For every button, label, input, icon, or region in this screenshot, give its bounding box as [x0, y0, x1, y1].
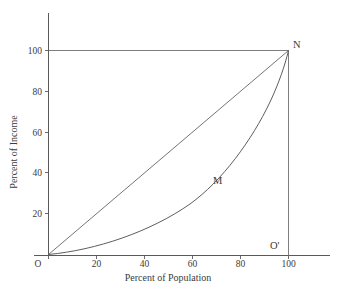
x-tick-label-80: 80 [236, 259, 246, 269]
y-axis-title: Percent of Income [8, 115, 19, 189]
label-o-prime: O' [270, 240, 280, 251]
y-tick-label-100: 100 [28, 46, 43, 56]
x-tick-label-origin: O [35, 259, 42, 269]
x-tick-label-20: 20 [92, 259, 102, 269]
x-tick-label-40: 40 [140, 259, 150, 269]
label-m-point: M [213, 175, 223, 186]
lorenz-curve-chart: O 20 40 60 80 100 100 80 60 40 20 N M O'… [0, 0, 337, 292]
x-tick-label-100: 100 [281, 259, 296, 269]
y-tick-label-60: 60 [33, 128, 43, 138]
chart-background [0, 0, 337, 292]
x-tick-label-60: 60 [188, 259, 198, 269]
y-tick-label-40: 40 [33, 168, 43, 178]
label-n-point: N [293, 39, 301, 50]
y-tick-label-80: 80 [33, 87, 43, 97]
x-axis-title: Percent of Population [125, 272, 212, 283]
y-tick-label-20: 20 [33, 209, 43, 219]
lorenz-curve-figure: O 20 40 60 80 100 100 80 60 40 20 N M O'… [0, 0, 337, 292]
